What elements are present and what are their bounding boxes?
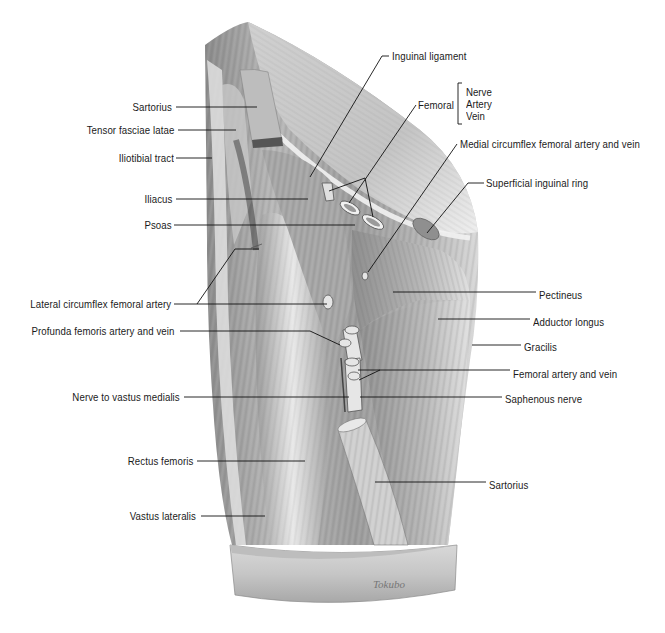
label-medial-circumflex: Medial circumflex femoral artery and vei… [460,138,640,150]
label-rectus-femoris: Rectus femoris [127,455,193,467]
label-iliacus: Iliacus [144,193,172,205]
femoral-artery-label: Artery [466,98,492,110]
label-femoral-artery-and-vein: Femoral artery and vein [513,368,617,380]
femoral-bracket-list: Nerve Artery Vein [466,86,492,122]
label-lateral-circumflex-femoral-artery: Lateral circumflex femoral artery [30,298,171,310]
label-superficial-inguinal-ring: Superficial inguinal ring [486,177,588,189]
femoral-vein-label: Vein [466,110,492,122]
label-tensor-fasciae-latae: Tensor fasciae latae [86,124,174,136]
label-profunda-femoris: Profunda femoris artery and vein [32,325,175,337]
label-sartorius-upper: Sartorius [133,101,172,113]
label-adductor-longus: Adductor longus [533,316,604,328]
label-femoral: Femoral [418,99,454,111]
label-pectineus: Pectineus [539,289,582,301]
label-inguinal-ligament: Inguinal ligament [392,50,467,62]
femoral-nerve-label: Nerve [466,86,492,98]
label-psoas: Psoas [145,219,172,231]
label-iliotibial-tract: Iliotibial tract [119,152,174,164]
label-nerve-to-vastus-medialis: Nerve to vastus medialis [73,391,180,403]
label-vastus-lateralis: Vastus lateralis [130,510,196,522]
label-saphenous-nerve: Saphenous nerve [505,393,582,405]
label-sartorius-lower: Sartorius [489,479,528,491]
artist-signature: Tokubo [373,578,405,590]
label-gracilis: Gracilis [524,341,557,353]
